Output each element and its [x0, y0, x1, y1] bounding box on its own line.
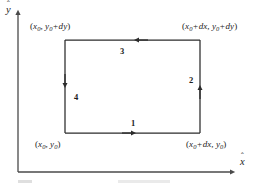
- segment-number-1: 1: [131, 119, 135, 128]
- segment-number-4: 4: [74, 93, 78, 102]
- caption-remnant-center: [118, 180, 170, 183]
- x-axis-label: ˆx: [240, 157, 245, 168]
- corner-label-top-right: (x0+dx, y0+dy): [182, 22, 237, 32]
- figure-root: (x0, y0+dy) (x0+dx, y0+dy) (x0, y0) (x0+…: [0, 0, 276, 185]
- corner-label-bottom-left: (x0, y0): [35, 140, 60, 150]
- y-hat-accent: ˆ: [7, 1, 10, 9]
- corner-label-bottom-right: (x0+dx, y0): [186, 140, 226, 150]
- corner-label-top-left: (x0, y0+dy): [30, 22, 70, 32]
- x-hat-accent: ˆ: [241, 153, 244, 161]
- caption-remnant-left: [18, 180, 32, 183]
- segment-number-3: 3: [120, 47, 124, 56]
- segment-number-2: 2: [189, 76, 193, 85]
- y-axis-label: ˆy: [6, 5, 11, 16]
